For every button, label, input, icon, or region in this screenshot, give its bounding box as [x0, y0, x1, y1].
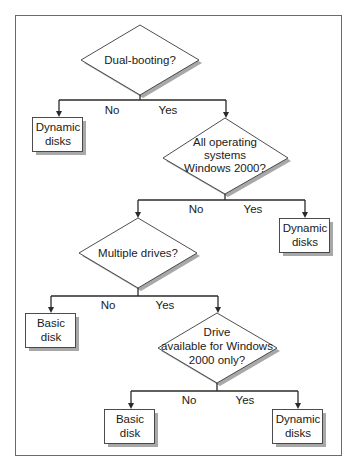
- branch-label-yes: Yes: [156, 299, 175, 311]
- svg-text:Basic: Basic: [116, 413, 144, 425]
- outcome-dynamic-disks: Dynamic disks: [273, 410, 327, 448]
- svg-text:Dynamic: Dynamic: [276, 413, 321, 425]
- branch-label-no: No: [182, 394, 197, 406]
- svg-text:Multiple drives?: Multiple drives?: [98, 247, 178, 259]
- branch-label-yes: Yes: [159, 104, 178, 116]
- svg-text:Windows 2000?: Windows 2000?: [184, 162, 266, 174]
- branch-label-yes: Yes: [236, 394, 255, 406]
- outcome-basic-disk: Basic disk: [105, 410, 159, 448]
- decision-text: Dual-booting?: [104, 54, 176, 66]
- svg-text:Drive: Drive: [204, 326, 231, 338]
- svg-text:available for Windows: available for Windows: [161, 340, 273, 352]
- branch-label-no: No: [189, 203, 204, 215]
- flowchart: Dual-booting? No Yes Dynamic disks All o…: [0, 0, 356, 468]
- svg-text:Basic: Basic: [37, 317, 65, 329]
- svg-text:disk: disk: [41, 331, 62, 343]
- svg-text:2000 only?: 2000 only?: [189, 354, 245, 366]
- outcome-dynamic-disks: Dynamic disks: [33, 118, 87, 156]
- svg-text:disks: disks: [292, 236, 318, 248]
- branch-label-yes: Yes: [244, 203, 263, 215]
- svg-text:disks: disks: [45, 135, 71, 147]
- outcome-basic-disk: Basic disk: [26, 314, 80, 352]
- svg-text:disks: disks: [285, 427, 311, 439]
- branch-label-no: No: [101, 299, 116, 311]
- svg-text:Dynamic: Dynamic: [36, 121, 81, 133]
- svg-text:Dynamic: Dynamic: [283, 222, 328, 234]
- svg-text:All operating: All operating: [193, 136, 257, 148]
- branch-label-no: No: [105, 104, 120, 116]
- outcome-dynamic-disks: Dynamic disks: [280, 219, 334, 257]
- svg-text:systems: systems: [204, 149, 246, 161]
- svg-text:disk: disk: [120, 427, 141, 439]
